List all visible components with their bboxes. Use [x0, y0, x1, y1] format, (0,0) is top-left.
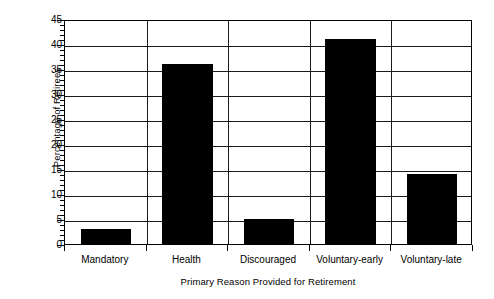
y-tick-minor: [60, 105, 65, 106]
y-tick-minor: [60, 35, 65, 36]
y-tick-minor: [60, 205, 65, 206]
x-category-label-discouraged: Discouraged: [227, 254, 309, 266]
plot-area: [64, 20, 472, 245]
x-tick: [472, 245, 473, 251]
gridline-vertical: [391, 21, 392, 244]
y-tick-minor: [60, 55, 65, 56]
x-tick: [390, 245, 391, 251]
y-tick-minor: [60, 80, 65, 81]
x-category-label-voluntary-early: Voluntary-early: [309, 254, 391, 266]
bar-discouraged: [244, 219, 295, 244]
gridline-horizontal: [65, 96, 471, 97]
y-tick-minor: [60, 185, 65, 186]
y-tick-major: [57, 20, 64, 21]
gridline-vertical: [310, 21, 311, 244]
y-tick-minor: [60, 190, 65, 191]
y-tick-major: [57, 220, 64, 221]
y-tick-minor: [60, 160, 65, 161]
y-tick-minor: [60, 75, 65, 76]
y-tick-minor: [60, 30, 65, 31]
y-tick-minor: [60, 130, 65, 131]
y-tick-minor: [60, 215, 65, 216]
y-tick-minor: [60, 225, 65, 226]
y-tick-major: [57, 45, 64, 46]
y-tick-minor: [60, 40, 65, 41]
x-tick: [146, 245, 147, 251]
y-tick-minor: [60, 90, 65, 91]
x-category-label-voluntary-late: Voluntary-late: [390, 254, 472, 266]
x-category-label-mandatory: Mandatory: [64, 254, 146, 266]
bar-voluntary-late: [407, 174, 458, 244]
y-tick-minor: [60, 50, 65, 51]
gridline-horizontal: [65, 71, 471, 72]
y-tick-minor: [60, 155, 65, 156]
y-tick-major: [57, 145, 64, 146]
y-tick-minor: [60, 235, 65, 236]
gridline-horizontal: [65, 171, 471, 172]
x-axis-title: Primary Reason Provided for Retirement: [64, 276, 472, 287]
y-tick-minor: [60, 115, 65, 116]
x-category-label-health: Health: [146, 254, 228, 266]
y-tick-major: [57, 195, 64, 196]
y-tick-major: [57, 70, 64, 71]
y-tick-minor: [60, 25, 65, 26]
y-tick-minor: [60, 85, 65, 86]
y-tick-minor: [60, 140, 65, 141]
gridline-horizontal: [65, 121, 471, 122]
gridline-vertical: [147, 21, 148, 244]
gridline-horizontal: [65, 46, 471, 47]
y-tick-minor: [60, 110, 65, 111]
bar-mandatory: [81, 229, 132, 244]
y-tick-major: [57, 120, 64, 121]
bar-voluntary-early: [325, 39, 376, 244]
y-tick-minor: [60, 100, 65, 101]
y-tick-minor: [60, 125, 65, 126]
y-tick-minor: [60, 240, 65, 241]
y-tick-minor: [60, 180, 65, 181]
x-tick: [309, 245, 310, 251]
y-tick-major: [57, 95, 64, 96]
y-tick-major: [57, 170, 64, 171]
x-tick: [227, 245, 228, 251]
gridline-vertical: [228, 21, 229, 244]
y-tick-major: [57, 245, 64, 246]
y-tick-minor: [60, 165, 65, 166]
y-tick-minor: [60, 65, 65, 66]
gridline-horizontal: [65, 146, 471, 147]
x-tick: [64, 245, 65, 251]
bar-health: [162, 64, 213, 244]
y-tick-minor: [60, 150, 65, 151]
y-tick-minor: [60, 200, 65, 201]
y-tick-minor: [60, 60, 65, 61]
y-tick-minor: [60, 175, 65, 176]
y-tick-minor: [60, 210, 65, 211]
y-tick-minor: [60, 135, 65, 136]
y-tick-minor: [60, 230, 65, 231]
bar-chart-figure: Percentage of Retirees 05101520253035404…: [0, 0, 494, 299]
